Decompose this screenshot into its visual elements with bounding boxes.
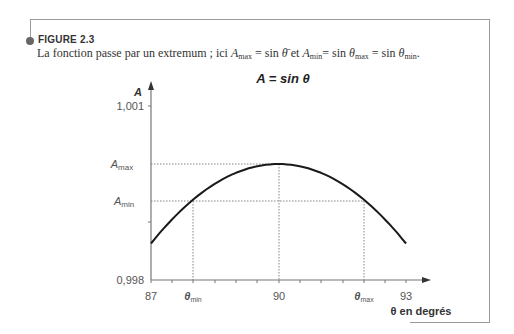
x-label-theta-max: θmax — [354, 290, 374, 303]
y-label-amax: Amax — [110, 158, 133, 172]
x-axis-label: θ en degrés — [391, 305, 452, 317]
x-tick-87: 87 — [145, 290, 157, 302]
y-axis-label: A — [133, 86, 142, 98]
y-tick-0998: 0,998 — [116, 274, 144, 286]
chart-title: A = sin θ — [255, 71, 309, 86]
x-axis-arrow-icon — [422, 277, 431, 283]
x-tick-93: 93 — [400, 290, 412, 302]
y-label-amin: Amin — [113, 195, 134, 209]
y-axis-arrow-icon — [148, 81, 154, 90]
sine-chart: A = sin θ A 1,001 0,998 Amax Amin 87 90 — [0, 0, 514, 334]
guide-lines — [151, 164, 364, 280]
x-tick-90: 90 — [273, 290, 285, 302]
sine-curve — [151, 164, 406, 244]
y-tick-1001: 1,001 — [116, 100, 144, 112]
x-label-theta-min: θmin — [184, 290, 202, 303]
